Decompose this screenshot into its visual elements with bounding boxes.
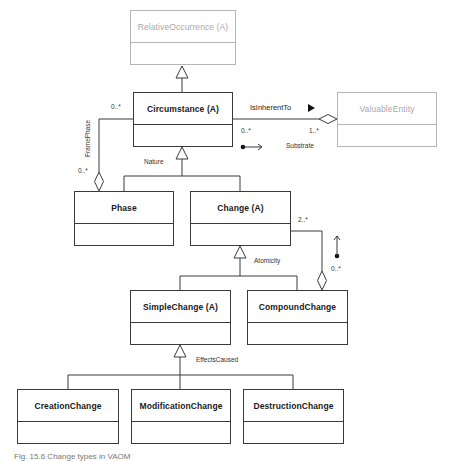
class-destruction-change[interactable]: DestructionChange — [243, 389, 344, 444]
class-name: ValuableEntity — [338, 93, 436, 125]
class-relative-occurrence[interactable]: RelativeOccurrence (A) — [130, 10, 236, 65]
class-change[interactable]: Change (A) — [190, 191, 291, 246]
class-name: SimpleChange (A) — [131, 291, 230, 323]
generalization-arrowhead-icon — [176, 147, 188, 159]
association-label-is-inherent-to: IsInherentTo — [250, 103, 291, 112]
class-simple-change[interactable]: SimpleChange (A) — [130, 290, 231, 345]
multiplicity-label: 0..* — [331, 265, 341, 272]
multiplicity-label: 1..* — [309, 127, 319, 134]
class-valuable-entity[interactable]: ValuableEntity — [337, 92, 437, 147]
class-name: CompoundChange — [248, 291, 347, 323]
aggregation-diamond-icon — [95, 172, 104, 191]
multiplicity-label: 0..* — [78, 167, 88, 174]
aggregation-diamond-icon — [319, 115, 337, 124]
generalization-set-label-effects-caused: EffectsCaused — [196, 356, 238, 363]
aggregation-diamond-icon — [318, 271, 327, 290]
class-creation-change[interactable]: CreationChange — [17, 389, 119, 444]
class-modification-change[interactable]: ModificationChange — [131, 389, 231, 444]
association-line-compound — [290, 231, 322, 271]
association-line-frame-phase — [99, 119, 133, 172]
generalization-arrowhead-icon — [234, 246, 246, 258]
generalization-set-label-atomicity: Atomicity — [254, 257, 280, 264]
multiplicity-label: 2..* — [298, 216, 308, 223]
direction-triangle-icon — [308, 104, 315, 112]
class-phase[interactable]: Phase — [74, 191, 174, 246]
class-name: CreationChange — [18, 390, 118, 422]
class-name: Phase — [75, 192, 173, 224]
figure-caption: Fig. 15.6 Change types in VAOM — [14, 452, 130, 461]
multiplicity-label: 0..* — [241, 127, 251, 134]
role-label-substrate: Substrate — [286, 142, 314, 149]
class-name: DestructionChange — [244, 390, 343, 422]
class-name: Circumstance (A) — [134, 93, 232, 125]
multiplicity-label: 0..* — [111, 103, 121, 110]
class-compound-change[interactable]: CompoundChange — [247, 290, 348, 345]
generalization-arrowhead-icon — [176, 66, 188, 78]
class-name: Change (A) — [191, 192, 290, 224]
class-name: ModificationChange — [132, 390, 230, 422]
association-label-frame-phase: FramePhase — [84, 120, 91, 157]
generalization-set-label-nature: Nature — [144, 158, 164, 165]
generalization-arrowhead-icon — [174, 345, 186, 357]
class-name: RelativeOccurrence (A) — [131, 11, 235, 43]
class-circumstance[interactable]: Circumstance (A) — [133, 92, 233, 147]
